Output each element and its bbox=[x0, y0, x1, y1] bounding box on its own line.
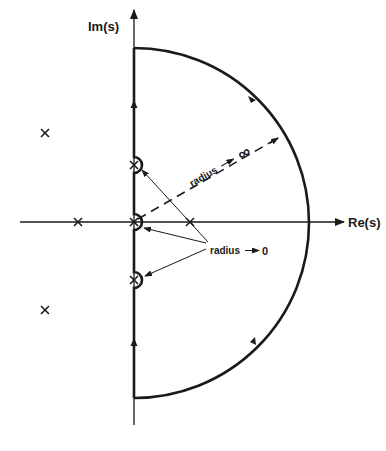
nyquist-contour-diagram: Re(s) Im(s) radius ∞ radius 0 bbox=[0, 0, 386, 451]
large-radius-limit: ∞ bbox=[234, 142, 254, 165]
nyquist-contour bbox=[134, 48, 309, 398]
imaginary-axis-label: Im(s) bbox=[88, 19, 119, 34]
real-axis-label: Re(s) bbox=[348, 215, 381, 230]
pole-icon bbox=[41, 129, 49, 137]
small-radius-text: radius bbox=[210, 245, 240, 256]
contour-direction-arrows bbox=[131, 96, 257, 346]
pole-icon bbox=[41, 306, 49, 314]
small-radius-limit: 0 bbox=[262, 245, 268, 257]
small-radius-leaders bbox=[142, 170, 208, 276]
arrow-up-icon bbox=[131, 338, 138, 346]
arrow-up-icon bbox=[131, 100, 138, 108]
large-radius-text: radius bbox=[188, 164, 220, 189]
arrow-clockwise-icon bbox=[250, 337, 256, 345]
